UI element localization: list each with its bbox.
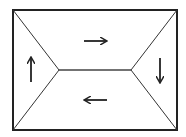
- flow-diagram: [0, 0, 186, 137]
